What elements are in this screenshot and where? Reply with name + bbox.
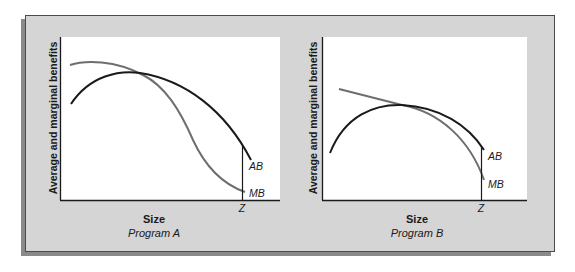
panel-program-a: AB MB Z Average and marginal benefits Si… (47, 37, 280, 239)
caption-a: Program A (128, 227, 180, 239)
x-axis-label-b: Size (406, 213, 428, 225)
ab-label-a: AB (248, 160, 263, 172)
y-axis-label-b: Average and marginal benefits (307, 42, 319, 195)
panel-program-b: AB MB Z Average and marginal benefits Si… (307, 37, 527, 239)
figure-canvas: AB MB Z Average and marginal benefits Si… (0, 0, 575, 272)
z-tick-a: Z (238, 202, 246, 214)
plot-area-b (322, 37, 527, 200)
caption-b: Program B (391, 227, 444, 239)
y-axis-label-a: Average and marginal benefits (47, 42, 59, 195)
x-axis-label-a: Size (143, 213, 165, 225)
z-tick-b: Z (477, 202, 485, 214)
ab-label-b: AB (487, 150, 502, 162)
mb-label-b: MB (488, 178, 504, 190)
mb-label-a: MB (249, 187, 265, 199)
